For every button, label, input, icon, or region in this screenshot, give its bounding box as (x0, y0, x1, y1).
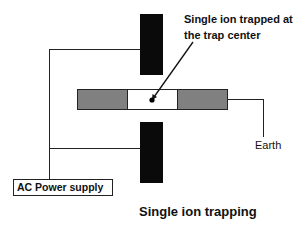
annotation-line-1: Single ion trapped at (184, 13, 293, 25)
diagram-title: Single ion trapping (139, 204, 257, 219)
earth-label: Earth (255, 139, 281, 151)
annotation-line-2: the trap center (184, 29, 260, 41)
ac-power-supply-label: AC Power supply (17, 181, 103, 193)
trapped-ion-icon (149, 97, 154, 102)
ac-power-supply-box: AC Power supply (13, 179, 113, 196)
